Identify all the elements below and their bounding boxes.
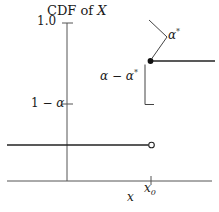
alpha-star-pointer [149,20,167,59]
y-tick-label-1-minus-alpha: 1 − α [31,97,64,110]
open-circle-endpoint [149,142,155,148]
x-tick-label-x0: x0 [144,182,156,195]
y-tick-label-1.0: 1.0 [37,15,56,28]
cdf-figure: CDF of X 1.0 1 − α α − α* α* x x0 [0,0,219,212]
x-tick-label-base: x [144,181,151,195]
x-tick-label-subscript: 0 [151,188,156,197]
annotation-gap-superscript: * [134,68,138,77]
y-tick-label-number: 1 − [31,96,56,110]
x-axis-label: x [127,191,134,204]
jump-point-dot [148,58,154,64]
annotation-alpha-star: α* [168,29,180,42]
gap-bracket [145,65,154,105]
annotation-gap-base: α − α [100,69,134,83]
annotation-alpha-star-superscript: * [176,27,180,36]
annotation-alpha-star-base: α [168,28,176,42]
y-tick-label-alpha: α [56,96,64,110]
chart-title-variable: X [97,3,106,18]
annotation-alpha-minus-alpha-star: α − α* [100,70,138,83]
